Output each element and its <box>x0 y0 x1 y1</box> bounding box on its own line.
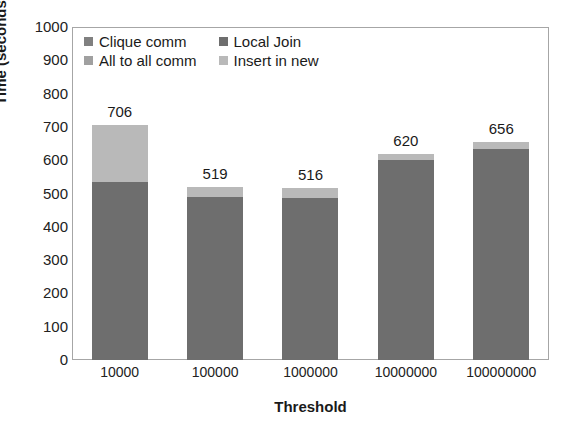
bar-value-label: 519 <box>203 165 228 182</box>
legend-label: Local Join <box>234 33 302 50</box>
legend-entry[interactable]: Clique comm <box>84 33 197 50</box>
bar-segment[interactable] <box>187 197 243 360</box>
x-axis-tick-label: 10000 <box>100 364 139 380</box>
bar-segment[interactable] <box>92 182 148 360</box>
legend-swatch-icon <box>219 37 228 46</box>
chart-legend: Clique commLocal JoinAll to all commInse… <box>84 33 319 69</box>
legend-label: All to all comm <box>99 52 197 69</box>
y-axis-tick-label: 400 <box>6 220 68 234</box>
y-axis-tick-label: 800 <box>6 87 68 101</box>
stacked-bar-chart: Time (seconds) 1000900800700600500400300… <box>0 0 563 431</box>
bar-segment[interactable] <box>473 149 529 360</box>
y-axis-tick-label: 0 <box>6 353 68 367</box>
x-axis-tick-label: 100000000 <box>466 364 536 380</box>
y-axis-tick-label: 300 <box>6 253 68 267</box>
bar-value-label: 706 <box>107 103 132 120</box>
legend-entry[interactable]: All to all comm <box>84 52 197 69</box>
bar-group: 706 <box>72 27 167 360</box>
y-axis-tick-label: 100 <box>6 320 68 334</box>
legend-swatch-icon <box>219 56 228 65</box>
legend-swatch-icon <box>84 37 93 46</box>
bar-segment[interactable] <box>187 187 243 197</box>
bar-segment[interactable] <box>378 160 434 360</box>
bar-segment[interactable] <box>282 188 338 198</box>
bar-segment[interactable] <box>282 198 338 360</box>
legend-label: Insert in new <box>234 52 319 69</box>
legend-label: Clique comm <box>99 33 187 50</box>
bar-stack[interactable] <box>282 188 338 360</box>
legend-entry[interactable]: Local Join <box>219 33 319 50</box>
bar-value-label: 620 <box>393 132 418 149</box>
y-axis-tick-label: 600 <box>6 153 68 167</box>
bar-segment[interactable] <box>92 125 148 182</box>
bar-value-label: 516 <box>298 166 323 183</box>
y-axis-tick-label: 900 <box>6 53 68 67</box>
bar-stack[interactable] <box>92 125 148 360</box>
legend-swatch-icon <box>84 56 93 65</box>
y-axis-tick-label: 1000 <box>6 20 68 34</box>
legend-entry[interactable]: Insert in new <box>219 52 319 69</box>
bar-segment[interactable] <box>473 142 529 149</box>
x-axis-tick-label: 100000 <box>192 364 239 380</box>
y-axis-tick-label: 700 <box>6 120 68 134</box>
bar-group: 620 <box>358 27 453 360</box>
y-axis-tick-labels: 10009008007006005004003002001000 <box>0 0 68 431</box>
x-axis-tick-label: 10000000 <box>375 364 437 380</box>
y-axis-tick-label: 200 <box>6 286 68 300</box>
bar-stack[interactable] <box>187 187 243 360</box>
bar-group: 516 <box>263 27 358 360</box>
bar-group: 656 <box>454 27 549 360</box>
x-axis-title: Threshold <box>72 398 549 415</box>
bar-value-label: 656 <box>489 120 514 137</box>
bars-layer: 706519516620656 <box>72 27 549 360</box>
bar-stack[interactable] <box>473 142 529 360</box>
bar-stack[interactable] <box>378 154 434 360</box>
x-axis-tick-labels: 10000100000100000010000000100000000 <box>72 364 549 388</box>
x-axis-tick-label: 1000000 <box>283 364 338 380</box>
y-axis-tick-label: 500 <box>6 187 68 201</box>
bar-group: 519 <box>167 27 262 360</box>
